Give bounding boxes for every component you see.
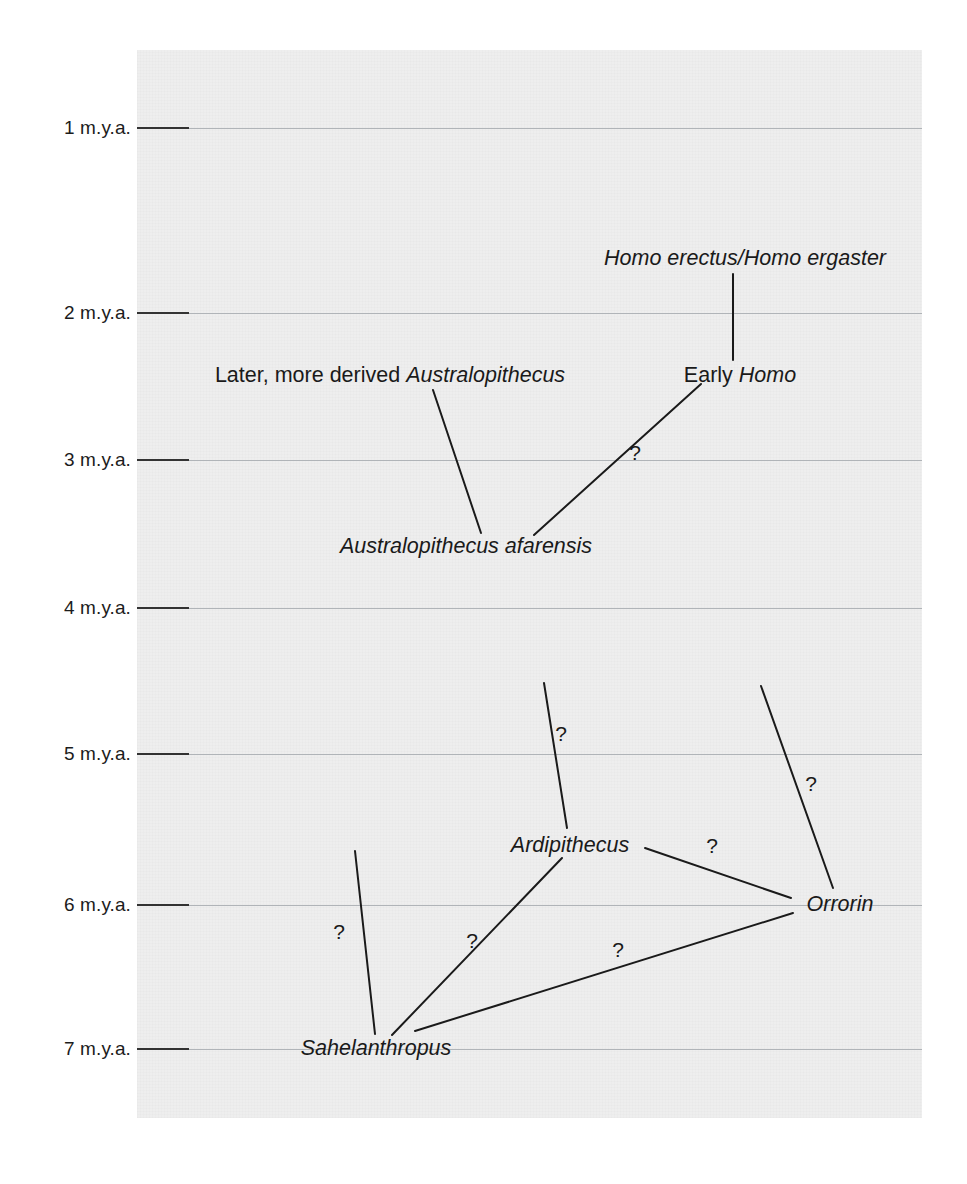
gridline-3-mya	[187, 460, 922, 461]
gridline-4-mya	[187, 608, 922, 609]
taxon-label-later-derived-australopithecus: Later, more derived Australopithecus	[215, 365, 565, 387]
taxon-label-italic-part: Homo	[739, 363, 796, 387]
tick-mark-3-mya	[137, 459, 189, 461]
phylogeny-figure: 1 m.y.a.2 m.y.a.3 m.y.a.4 m.y.a.5 m.y.a.…	[0, 0, 967, 1184]
tick-mark-6-mya	[137, 904, 189, 906]
taxon-label-homo-erectus-ergaster: Homo erectus/Homo ergaster	[604, 248, 886, 270]
gridline-7-mya	[187, 1049, 922, 1050]
panel-texture	[137, 50, 922, 1118]
gridline-2-mya	[187, 313, 922, 314]
tick-mark-5-mya	[137, 753, 189, 755]
plot-area	[137, 50, 922, 1118]
axis-tick-label-7-mya: 7 m.y.a.	[11, 1039, 131, 1058]
uncertainty-mark-q-sahel-up: ?	[333, 921, 345, 942]
taxon-label-italic-part: Australopithecus	[406, 363, 565, 387]
axis-label-column: 1 m.y.a.2 m.y.a.3 m.y.a.4 m.y.a.5 m.y.a.…	[0, 0, 131, 1184]
taxon-label-sahelanthropus: Sahelanthropus	[301, 1038, 452, 1060]
axis-tick-label-3-mya: 3 m.y.a.	[11, 450, 131, 469]
gridline-5-mya	[187, 754, 922, 755]
taxon-label-ardipithecus: Ardipithecus	[511, 835, 629, 857]
taxon-label-roman-part: Later, more derived	[215, 363, 406, 387]
uncertainty-mark-q-ardi-orrorin: ?	[706, 835, 718, 856]
axis-tick-label-1-mya: 1 m.y.a.	[11, 118, 131, 137]
taxon-label-roman-part: Early	[684, 363, 739, 387]
axis-tick-label-5-mya: 5 m.y.a.	[11, 744, 131, 763]
taxon-label-orrorin: Orrorin	[807, 894, 874, 916]
tick-mark-4-mya	[137, 607, 189, 609]
tick-mark-7-mya	[137, 1048, 189, 1050]
tick-mark-2-mya	[137, 312, 189, 314]
uncertainty-mark-q-afarensis-earlyhomo: ?	[629, 442, 641, 463]
axis-tick-label-6-mya: 6 m.y.a.	[11, 895, 131, 914]
taxon-label-australopithecus-afarensis: Australopithecus afarensis	[340, 536, 592, 558]
tick-mark-1-mya	[137, 127, 189, 129]
axis-tick-label-4-mya: 4 m.y.a.	[11, 598, 131, 617]
uncertainty-mark-q-ardipithecus-up: ?	[555, 723, 567, 744]
uncertainty-mark-q-sahel-ardi: ?	[466, 930, 478, 951]
taxon-label-early-homo: Early Homo	[684, 365, 796, 387]
uncertainty-mark-q-orrorin-up: ?	[805, 773, 817, 794]
uncertainty-mark-q-sahel-orrorin: ?	[612, 939, 624, 960]
axis-tick-label-2-mya: 2 m.y.a.	[11, 303, 131, 322]
gridline-1-mya	[187, 128, 922, 129]
